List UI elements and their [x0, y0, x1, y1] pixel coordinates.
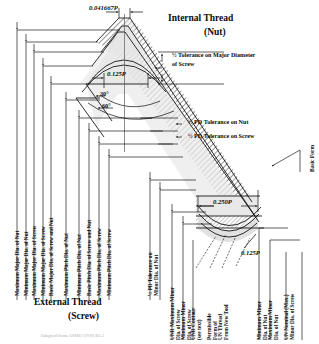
- label-pd-tolerance-minor-dia-nut-line2: Minor Dia. of Nut: [154, 253, 160, 296]
- label-min-major-dia-screw: Minimum Major Dia. of Screw: [41, 226, 46, 296]
- label-max-major-dia-screw: Maximum Major Dia. of Screw: [32, 226, 37, 296]
- basic-form-leader: [272, 150, 300, 172]
- label-permissible-form-line4: From New Tool: [224, 304, 230, 340]
- label-basic-major-dia-screw-and-nut: Basic Major Dia. of Screw and Nut: [49, 217, 54, 296]
- external-thread-title-line2: (Screw): [68, 312, 99, 322]
- label-min-pitch-dia-nut: Minimum Pitch Dia. of Nut: [77, 234, 82, 296]
- pd-tolerance-screw-callout: ½ PD Tolerance on Screw: [188, 133, 254, 139]
- label-max-major-dia-nut: Maximum Major Dia. of Nut: [15, 231, 20, 296]
- internal-thread-title-line2: (Nut): [204, 28, 226, 38]
- label-max-pitch-dia-screw: Maximum Pitch Dia. of Screw: [97, 228, 102, 296]
- internal-thread-title-line1: Internal Thread: [168, 14, 233, 24]
- nut-crest-flat-dimension-label: 0.125P: [107, 71, 126, 78]
- figure-footnote: Adapted from ASME/ANSI B1.1: [40, 333, 104, 338]
- label-pd-tolerance-minor-dia-nut: ½ PD Tolerance on Minor Dia. of Nut: [148, 253, 159, 296]
- label-max-pitch-dia-nut: Maximum Pitch Dia. of Nut: [64, 233, 69, 296]
- half-angle-label: 30°: [100, 91, 109, 98]
- crest-flat-dimension-label: 0.041667P: [89, 5, 118, 12]
- label-unr-contour-line2: (see text): [197, 308, 203, 341]
- thread-profile-figure: Internal Thread (Nut) External Thread (S…: [0, 0, 319, 344]
- label-max-minor-dia-nut: Maximum Minor Dia. of Nut: [268, 300, 279, 340]
- basic-form-callout: Basic Form: [310, 145, 316, 172]
- label-un-nominal-minor-dia-screw-line2: Minor Dia. of Screw: [290, 293, 296, 340]
- major-tolerance-callout-line2: of Screw: [172, 61, 194, 67]
- pd-tolerance-nut-callout: ½ PD Tolerance on Nut: [188, 119, 248, 125]
- label-max-minor-dia-nut-line2: Dia. of Nut: [274, 300, 280, 340]
- label-unr-contour: UNR Contour (see text): [191, 308, 202, 341]
- full-angle-label: 60°: [102, 103, 111, 110]
- external-thread-title-line1: External Thread: [34, 298, 101, 308]
- label-un-nominal-minor-dia-screw: UN Nominal (Max.) Minor Dia. of Screw: [284, 293, 295, 340]
- label-permissible-form-un-thread: Permissible Form of UN Thread From New T…: [207, 304, 229, 340]
- label-min-pitch-dia-screw: Minimum Pitch Dia. of Screw: [107, 229, 112, 296]
- root-flat-dimension-label: 0.250P: [213, 199, 232, 206]
- screw-root-flat-dimension-label: 0.125P: [241, 250, 260, 257]
- major-tolerance-callout-line1: ½ Tolerance on Major Diameter: [172, 52, 255, 58]
- label-basic-pitch-dia-screw-and-nut: Basic Pitch Dia. of Screw and Nut: [87, 220, 92, 296]
- label-min-major-dia-nut: Minimum Major Dia. of Nut: [24, 232, 29, 296]
